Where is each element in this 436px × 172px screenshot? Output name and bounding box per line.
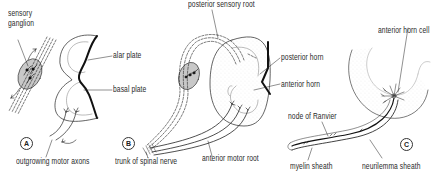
label-basal-plate: basal plate xyxy=(113,85,146,95)
label-trunk-of-spinal-nerve: trunk of spinal nerve xyxy=(115,157,177,167)
panel-letter-c: C xyxy=(400,138,413,151)
neural-development-figure: sensory ganglion alar plate basal plate … xyxy=(0,0,436,172)
panel-letter-b: B xyxy=(122,137,135,150)
label-posterior-sensory-root: posterior sensory root xyxy=(188,0,255,10)
sensory-ganglion-b xyxy=(175,59,203,92)
label-posterior-horn: posterior horn xyxy=(281,53,324,63)
label-sensory-ganglion-line2: ganglion xyxy=(8,19,34,29)
label-anterior-horn-cell: anterior horn cell xyxy=(378,26,429,36)
label-node-of-ranvier: node of Ranvier xyxy=(288,112,337,122)
label-outgrowing-motor-axons: outgrowing motor axons xyxy=(16,157,89,167)
label-anterior-horn: anterior horn xyxy=(281,80,320,90)
figure-artwork xyxy=(0,0,436,172)
panel-letter-a: A xyxy=(20,137,33,150)
label-anterior-motor-root: anterior motor root xyxy=(202,154,259,164)
label-sensory-ganglion-line1: sensory xyxy=(8,9,32,19)
label-alar-plate: alar plate xyxy=(113,51,141,61)
label-myelin-sheath: myelin sheath xyxy=(290,162,332,172)
panel-b-artwork xyxy=(143,10,280,158)
label-neurilemma-sheath: neurilemma sheath xyxy=(362,162,421,172)
